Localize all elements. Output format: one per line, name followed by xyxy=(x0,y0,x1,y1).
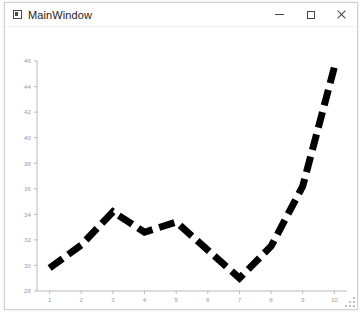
window-controls xyxy=(264,3,357,26)
x-tick-label: 5 xyxy=(174,296,178,303)
y-tick-label: 38 xyxy=(24,160,31,167)
plot-widget[interactable]: 28303234363840424446 12345678910 xyxy=(5,27,357,309)
y-tick-label: 34 xyxy=(24,211,31,218)
client-area: 28303234363840424446 12345678910 xyxy=(5,27,357,309)
y-tick-label: 40 xyxy=(24,134,31,141)
x-tick-label: 4 xyxy=(143,296,147,303)
series-line-path xyxy=(50,67,335,278)
x-tick-label: 6 xyxy=(206,296,210,303)
x-tick-label: 7 xyxy=(238,296,242,303)
y-tick-label: 28 xyxy=(24,287,31,294)
maximize-icon xyxy=(307,11,315,19)
window-title: MainWindow xyxy=(28,9,92,21)
line-chart: 28303234363840424446 12345678910 xyxy=(5,27,357,309)
minimize-icon xyxy=(275,14,284,15)
y-tick-label: 44 xyxy=(24,83,31,90)
resize-grip[interactable] xyxy=(343,295,355,307)
y-tick-label: 42 xyxy=(24,108,31,115)
y-tick-label: 36 xyxy=(24,185,31,192)
y-tick-label: 32 xyxy=(24,236,31,243)
main-window: MainWindow 28303234363840424446 12345678… xyxy=(4,2,358,310)
close-icon xyxy=(337,10,346,19)
x-tick-label: 10 xyxy=(331,296,338,303)
x-tick-label: 3 xyxy=(111,296,115,303)
axes xyxy=(37,61,347,291)
y-tick-label: 46 xyxy=(24,57,31,64)
title-bar[interactable]: MainWindow xyxy=(5,3,357,27)
y-axis-ticks: 28303234363840424446 xyxy=(24,57,37,294)
y-tick-label: 30 xyxy=(24,262,31,269)
x-tick-label: 2 xyxy=(80,296,84,303)
maximize-button[interactable] xyxy=(295,3,326,26)
app-window-icon xyxy=(13,10,22,19)
minimize-button[interactable] xyxy=(264,3,295,26)
x-axis-ticks: 12345678910 xyxy=(48,291,338,303)
x-tick-label: 8 xyxy=(269,296,273,303)
close-button[interactable] xyxy=(326,3,357,26)
x-tick-label: 1 xyxy=(48,296,52,303)
data-series xyxy=(50,67,335,278)
x-tick-label: 9 xyxy=(301,296,305,303)
